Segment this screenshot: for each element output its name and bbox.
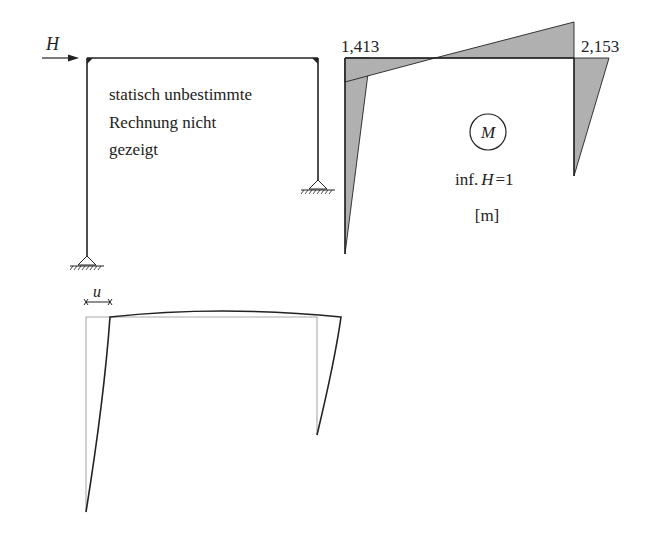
moment-left-column-area [345,58,370,254]
moment-beam-negative-area [345,58,435,82]
note-line-1: statisch unbestimmte [109,85,252,104]
displacement-label: u [93,283,101,300]
rigid-corner-left-icon [87,58,93,64]
unit-label: [m] [475,206,500,225]
structural-diagram: H [0,0,662,545]
frame-system: H [42,34,335,270]
undeformed-frame [86,317,317,512]
deformed-shape: u [84,283,341,512]
load-arrow-head-icon [68,55,79,62]
deformed-frame [86,311,341,512]
note-line-3: gezeigt [109,140,158,159]
moment-beam-positive-area [435,22,574,58]
load-label: H [45,34,60,54]
pinned-support-right-icon [301,180,335,194]
diagram-symbol: M [480,123,496,142]
rigid-corner-right-icon [312,58,318,64]
influence-label: inf.H=1 [455,170,514,189]
left-corner-value: 1,413 [341,37,379,56]
moment-right-column-area [574,58,609,176]
pinned-support-left-icon [70,256,104,270]
right-corner-value: 2,153 [581,37,619,56]
note-line-2: Rechnung nicht [109,113,216,132]
moment-diagram: 1,413 2,153 M inf.H=1 [m] [341,22,619,254]
